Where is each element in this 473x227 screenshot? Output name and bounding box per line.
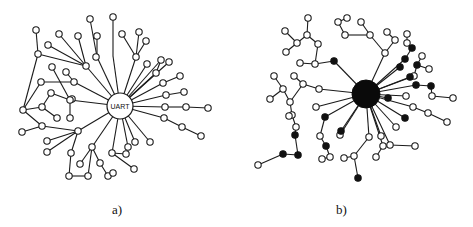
- graph-node: [286, 113, 292, 119]
- graph-node-filled: [409, 45, 415, 51]
- graph-node: [358, 19, 364, 25]
- graph-node: [319, 156, 325, 162]
- graph-node: [48, 90, 54, 96]
- graph-node: [63, 69, 69, 75]
- graph-node: [33, 27, 39, 33]
- graph-node: [412, 143, 418, 149]
- graph-node-filled: [402, 56, 408, 62]
- graph-node: [404, 40, 410, 46]
- graph-node-filled: [407, 74, 413, 80]
- diagram-panel-b: [255, 15, 456, 181]
- graph-node: [71, 79, 77, 85]
- graph-node: [282, 28, 288, 34]
- graph-node: [131, 166, 137, 172]
- graph-node: [315, 41, 321, 47]
- graph-node: [109, 150, 115, 156]
- graph-node: [344, 15, 350, 21]
- graph-node: [429, 93, 435, 99]
- graph-node: [97, 160, 103, 166]
- graph-node: [426, 66, 432, 72]
- graph-node: [177, 73, 183, 79]
- graph-node-filled: [428, 83, 434, 89]
- graph-node-filled: [331, 58, 337, 64]
- graph-node: [297, 60, 303, 66]
- graph-edge: [23, 82, 41, 110]
- graph-edge: [48, 45, 86, 66]
- figure-canvas: UART: [0, 0, 473, 227]
- graph-node: [89, 144, 95, 150]
- graph-node: [136, 29, 142, 35]
- graph-edge: [258, 154, 283, 165]
- graph-node: [342, 32, 348, 38]
- graph-node: [300, 81, 306, 87]
- graph-edge: [390, 145, 415, 146]
- graph-node: [93, 54, 99, 60]
- graph-node: [35, 51, 41, 57]
- graph-node: [425, 110, 431, 116]
- graph-node-filled: [322, 114, 328, 120]
- graph-node: [255, 162, 261, 168]
- graph-node: [313, 104, 319, 110]
- graph-node-filled: [414, 62, 420, 68]
- graph-node: [450, 95, 456, 101]
- graph-node: [56, 31, 62, 37]
- graph-node: [94, 33, 100, 39]
- graph-node: [158, 57, 164, 63]
- graph-node-filled: [280, 151, 286, 157]
- graph-node-filled: [385, 95, 391, 101]
- graph-node: [45, 42, 51, 48]
- graph-node: [166, 59, 172, 65]
- graph-node: [44, 149, 50, 155]
- graph-node: [294, 40, 300, 46]
- graph-node: [49, 64, 55, 70]
- graph-node: [267, 96, 273, 102]
- graph-node: [39, 123, 45, 129]
- graph-node: [366, 134, 372, 140]
- graph-edge: [38, 54, 86, 66]
- graph-node: [205, 105, 211, 111]
- graph-node-filled: [397, 64, 403, 70]
- graph-node: [378, 133, 384, 139]
- graph-node: [183, 104, 189, 110]
- graph-node: [410, 104, 416, 110]
- graph-node: [293, 124, 299, 130]
- graph-node: [66, 173, 72, 179]
- graph-node: [87, 16, 93, 22]
- graph-node-filled: [355, 175, 361, 181]
- graph-node: [75, 33, 81, 39]
- graph-edge: [122, 34, 136, 57]
- graph-node: [54, 115, 60, 121]
- graph-node: [38, 79, 44, 85]
- graph-node: [110, 14, 116, 20]
- graph-node: [335, 19, 341, 25]
- graph-node: [162, 104, 168, 110]
- graph-node: [144, 61, 150, 67]
- graph-node: [67, 97, 73, 103]
- graph-node-filled: [323, 143, 329, 149]
- graph-node: [153, 70, 159, 76]
- graph-edge: [23, 54, 38, 110]
- graph-edge: [47, 131, 78, 152]
- graph-node-filled: [338, 128, 344, 134]
- caption-a: a): [112, 202, 122, 218]
- graph-node: [160, 80, 166, 86]
- graph-node: [312, 61, 318, 67]
- graph-node-filled: [292, 132, 298, 138]
- graph-node: [181, 89, 187, 95]
- graph-node: [373, 154, 379, 160]
- caption-b: b): [336, 202, 347, 218]
- graph-node: [271, 73, 277, 79]
- graph-node: [123, 151, 129, 157]
- graph-node: [85, 173, 91, 179]
- graph-node: [382, 50, 388, 56]
- graph-node: [198, 133, 204, 139]
- graph-node: [133, 54, 139, 60]
- graph-node: [380, 143, 386, 149]
- graph-node: [179, 124, 185, 130]
- graph-node: [392, 37, 398, 43]
- graph-node: [77, 161, 83, 167]
- graph-node: [351, 153, 357, 159]
- graph-node: [39, 104, 45, 110]
- diagram-panel-a: UART: [19, 14, 211, 179]
- filled-hub-node: [352, 80, 380, 108]
